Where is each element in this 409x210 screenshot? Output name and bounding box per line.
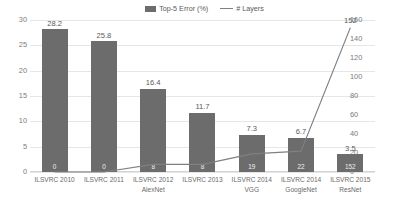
y-axis-right-tick-label: 100 — [350, 73, 374, 80]
x-axis-category-line: ILSVRC 2013 — [178, 175, 227, 185]
x-axis-category-line: ResNet — [326, 185, 375, 195]
x-axis-labels: ILSVRC 2010ILSVRC 2011ILSVRC 2012AlexNet… — [30, 175, 375, 205]
x-axis-category-line: ILSVRC 2012 — [129, 175, 178, 185]
bar-swatch-icon — [145, 6, 156, 12]
x-axis-category-line: GoogleNet — [276, 185, 325, 195]
legend-label-layers: # Layers — [236, 5, 264, 12]
x-axis-category-line: ILSVRC 2014 — [276, 175, 325, 185]
x-axis-category-label: ILSVRC 2014GoogleNet — [276, 175, 325, 194]
line-swatch-icon — [220, 8, 233, 9]
x-axis-category-label: ILSVRC 2013 — [178, 175, 227, 185]
line-series — [30, 20, 375, 172]
y-axis-left-tick-label: 5 — [7, 143, 27, 150]
y-axis-left-tick-label: 0 — [7, 168, 27, 175]
legend-item-top5-error[interactable]: Top-5 Error (%) — [145, 5, 208, 12]
x-axis-category-line: ILSVRC 2015 — [326, 175, 375, 185]
x-axis-category-label: ILSVRC 2015ResNet — [326, 175, 375, 194]
x-axis-category-line: ILSVRC 2011 — [79, 175, 128, 185]
y-axis-right-tick-label: 80 — [350, 92, 374, 99]
y-axis-right-tick-label: 60 — [350, 111, 374, 118]
legend-item-layers[interactable]: # Layers — [220, 5, 264, 12]
y-axis-right-tick-label: 40 — [350, 130, 374, 137]
y-axis-left-tick-label: 15 — [7, 92, 27, 99]
y-axis-left-tick-label: 10 — [7, 117, 27, 124]
y-axis-right-tick-label: 20 — [350, 149, 374, 156]
legend-label-top5-error: Top-5 Error (%) — [159, 5, 208, 12]
x-axis-category-line: ILSVRC 2014 — [227, 175, 276, 185]
y-axis-left-tick-label: 20 — [7, 67, 27, 74]
x-axis-category-line: ILSVRC 2010 — [30, 175, 79, 185]
chart-legend: Top-5 Error (%) # Layers — [0, 2, 409, 16]
x-axis-category-label: ILSVRC 2011 — [79, 175, 128, 185]
y-axis-right-tick-label: 160 — [350, 16, 374, 23]
y-axis-left-tick-label: 25 — [7, 41, 27, 48]
x-axis-category-label: ILSVRC 2010 — [30, 175, 79, 185]
y-axis-left-tick-label: 30 — [7, 16, 27, 23]
x-axis-category-line: AlexNet — [129, 185, 178, 195]
plot-area: 028.2025.8816.4811.7197.3226.71523.5 152 — [30, 20, 375, 172]
y-axis-right-tick-label: 120 — [350, 54, 374, 61]
x-axis-category-label: ILSVRC 2012AlexNet — [129, 175, 178, 194]
chart-container: Top-5 Error (%) # Layers 028.2025.8816.4… — [0, 0, 409, 210]
layers-line-path — [55, 28, 351, 172]
y-axis-right-tick-label: 140 — [350, 35, 374, 42]
x-axis-category-label: ILSVRC 2014VGG — [227, 175, 276, 194]
x-axis-category-line: VGG — [227, 185, 276, 195]
